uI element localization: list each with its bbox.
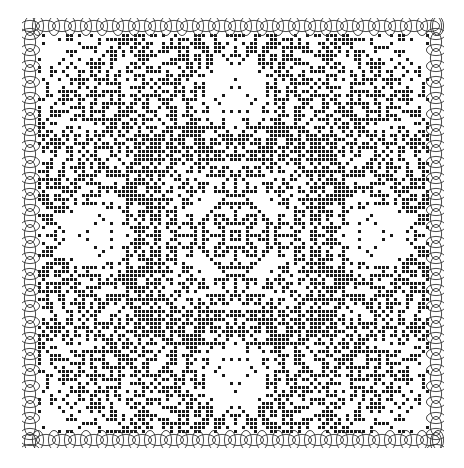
lace-pattern-image <box>22 18 444 448</box>
caption-clip <box>0 458 464 468</box>
figure <box>0 0 464 468</box>
